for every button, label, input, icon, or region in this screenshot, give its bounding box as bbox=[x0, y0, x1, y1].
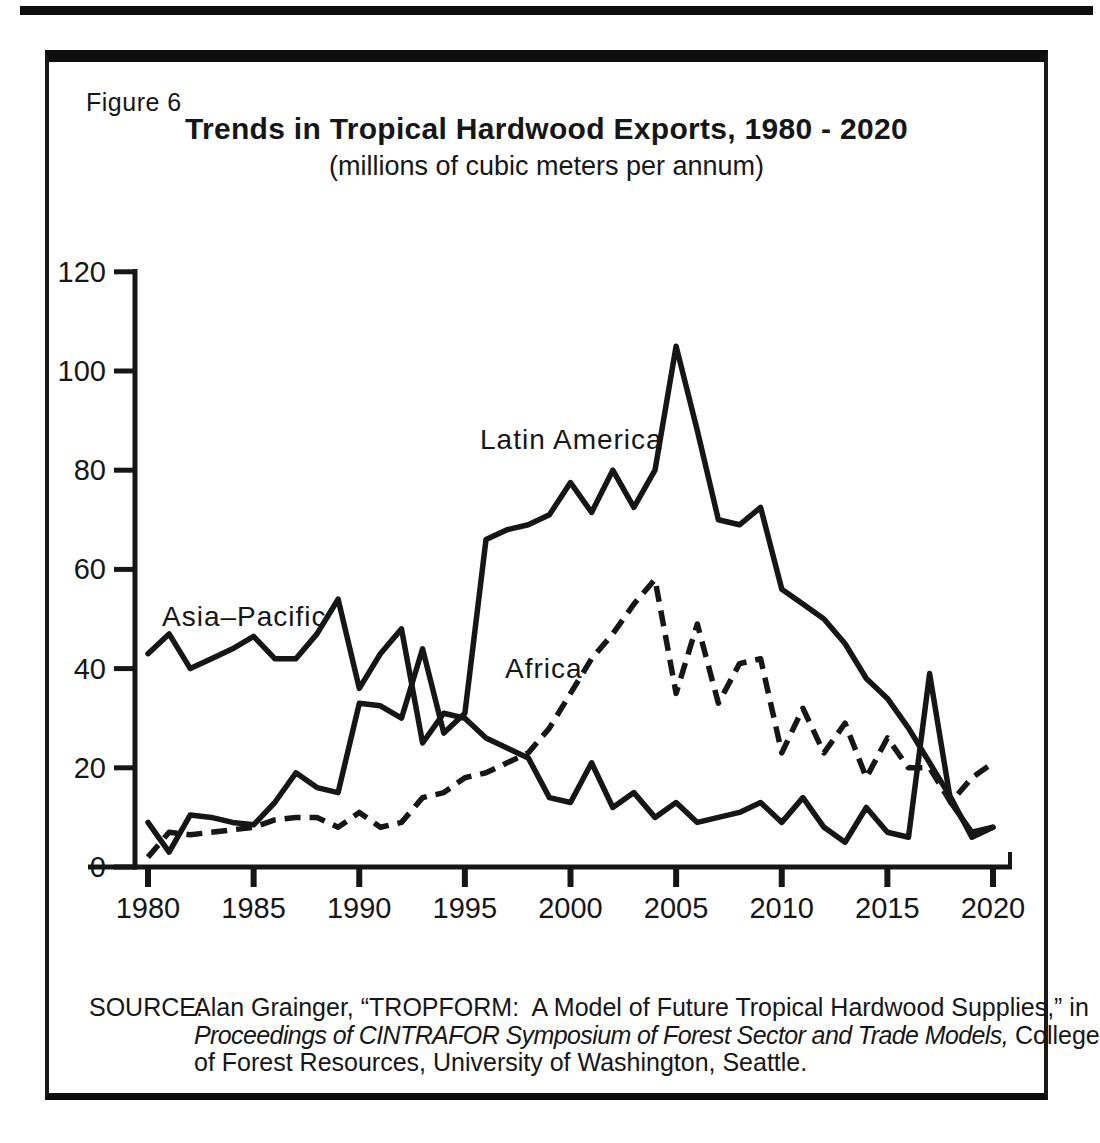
y-tick-label: 100 bbox=[58, 355, 106, 387]
x-tick-label: 1980 bbox=[116, 892, 181, 924]
y-tick-label: 80 bbox=[74, 454, 106, 486]
x-tick-label: 1990 bbox=[327, 892, 392, 924]
x-tick-label: 1985 bbox=[221, 892, 286, 924]
x-tick-label: 2005 bbox=[644, 892, 709, 924]
series-label-africa: Africa bbox=[505, 653, 583, 684]
source-label: SOURCE: bbox=[89, 994, 194, 1077]
source-line2-regular: College bbox=[1008, 1021, 1100, 1049]
source-note: SOURCE: Alan Grainger, “TROPFORM: A Mode… bbox=[89, 994, 1100, 1077]
source-line2-italic: Proceedings of CINTRAFOR Symposium of Fo… bbox=[194, 1021, 1008, 1049]
source-line3: of Forest Resources, University of Washi… bbox=[194, 1048, 807, 1076]
y-tick-label: 20 bbox=[74, 752, 106, 784]
series-label-asia-pacific: Asia–Pacific bbox=[162, 601, 327, 632]
x-tick-label: 2015 bbox=[855, 892, 920, 924]
source-line1: Alan Grainger, “TROPFORM: A Model of Fut… bbox=[194, 993, 1089, 1021]
y-tick-label: 0 bbox=[90, 851, 106, 883]
series-label-latin-america: Latin America bbox=[480, 424, 663, 455]
x-tick-label: 2020 bbox=[961, 892, 1026, 924]
page-top-scan-bar bbox=[20, 6, 1093, 15]
x-tick-label: 2000 bbox=[538, 892, 603, 924]
chart-title: Trends in Tropical Hardwood Exports, 198… bbox=[49, 112, 1044, 146]
source-text: Alan Grainger, “TROPFORM: A Model of Fut… bbox=[194, 994, 1100, 1077]
y-tick-label: 40 bbox=[74, 653, 106, 685]
series-line-latin-america bbox=[148, 346, 993, 852]
x-tick-label: 2010 bbox=[749, 892, 814, 924]
x-tick-label: 1995 bbox=[433, 892, 498, 924]
y-tick-label: 120 bbox=[58, 256, 106, 288]
y-tick-label: 60 bbox=[74, 553, 106, 585]
chart-subtitle: (millions of cubic meters per annum) bbox=[49, 151, 1044, 182]
chart-svg: 0204060801001201980198519901995200020052… bbox=[50, 240, 1040, 940]
